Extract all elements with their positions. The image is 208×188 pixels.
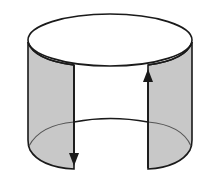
cylinder-diagram [0, 0, 208, 188]
top-ellipse [28, 14, 192, 66]
bottom-back-arc [74, 119, 148, 123]
